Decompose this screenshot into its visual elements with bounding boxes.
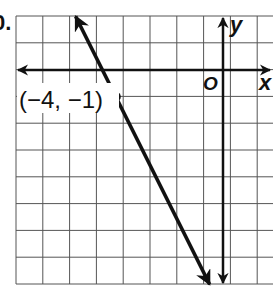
problem-number: 0.: [0, 10, 11, 36]
y-axis-label: y: [229, 12, 244, 37]
x-axis-label: x: [258, 70, 272, 95]
grid-lines: [16, 16, 273, 284]
coordinate-plane: (−4, −1) O x y: [0, 0, 273, 290]
point-label: (−4, −1): [19, 86, 103, 113]
origin-label: O: [203, 73, 218, 94]
coordinate-graph-figure: 0. (−4, −1) O x y: [0, 0, 273, 290]
